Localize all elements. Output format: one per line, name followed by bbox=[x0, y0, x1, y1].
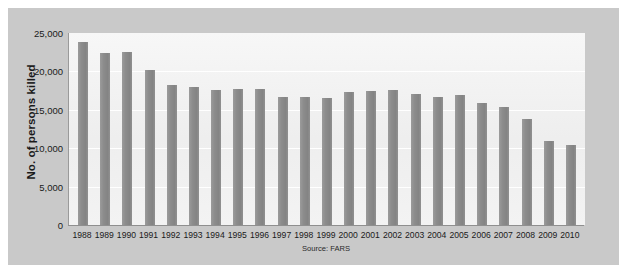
bar bbox=[122, 52, 132, 225]
x-tick-label: 2005 bbox=[448, 230, 470, 240]
bar-slot bbox=[493, 33, 515, 225]
y-axis-tick-labels: 25,000 20,000 15,000 10,000 5,000 0 bbox=[8, 33, 63, 225]
bar bbox=[544, 141, 554, 225]
bar-slot bbox=[116, 33, 138, 225]
x-tick-label: 2000 bbox=[337, 230, 359, 240]
x-tick-label: 1998 bbox=[293, 230, 315, 240]
x-tick-label: 2006 bbox=[470, 230, 492, 240]
x-tick-label: 1989 bbox=[93, 230, 115, 240]
y-tick-label: 20,000 bbox=[11, 66, 63, 77]
bar bbox=[189, 87, 199, 225]
bar-slot bbox=[382, 33, 404, 225]
bar bbox=[100, 53, 110, 225]
x-tick-label: 2002 bbox=[381, 230, 403, 240]
bar-slot bbox=[183, 33, 205, 225]
bar-slot bbox=[360, 33, 382, 225]
y-tick-label: 15,000 bbox=[11, 104, 63, 115]
x-tick-label: 1993 bbox=[182, 230, 204, 240]
bar-slot bbox=[205, 33, 227, 225]
bar bbox=[477, 103, 487, 225]
bar-slot bbox=[316, 33, 338, 225]
x-tick-label: 2001 bbox=[359, 230, 381, 240]
x-tick-label: 1988 bbox=[71, 230, 93, 240]
bar-slot bbox=[538, 33, 560, 225]
bar-slot bbox=[338, 33, 360, 225]
x-tick-label: 2009 bbox=[537, 230, 559, 240]
x-tick-label: 2010 bbox=[559, 230, 581, 240]
bar bbox=[499, 107, 509, 225]
bar bbox=[433, 97, 443, 225]
bar-slot bbox=[449, 33, 471, 225]
x-tick-label: 1997 bbox=[271, 230, 293, 240]
bar-slot bbox=[72, 33, 94, 225]
chart-panel: No. of persons killed 25,000 20,000 15,0… bbox=[8, 8, 619, 265]
x-tick-label: 1991 bbox=[138, 230, 160, 240]
bar-slot bbox=[515, 33, 537, 225]
bar bbox=[233, 89, 243, 225]
x-tick-label: 1990 bbox=[115, 230, 137, 240]
x-axis-tick-labels: 1988198919901991199219931994199519961997… bbox=[68, 230, 584, 240]
x-tick-label: 2008 bbox=[514, 230, 536, 240]
chart-figure: No. of persons killed 25,000 20,000 15,0… bbox=[8, 8, 619, 265]
x-tick-label: 1995 bbox=[226, 230, 248, 240]
x-tick-label: 1996 bbox=[248, 230, 270, 240]
bar bbox=[455, 95, 465, 225]
bar bbox=[78, 42, 88, 225]
bar-slot bbox=[94, 33, 116, 225]
y-tick-label: 5,000 bbox=[11, 181, 63, 192]
bar-slot bbox=[139, 33, 161, 225]
y-tick-label: 10,000 bbox=[11, 143, 63, 154]
x-tick-label: 1999 bbox=[315, 230, 337, 240]
bar bbox=[278, 97, 288, 225]
bar-slot bbox=[427, 33, 449, 225]
bar-slot bbox=[249, 33, 271, 225]
bar bbox=[145, 70, 155, 225]
y-tick-label: 25,000 bbox=[11, 28, 63, 39]
bar bbox=[522, 119, 532, 225]
bar bbox=[566, 145, 576, 225]
source-note: Source: FARS bbox=[68, 244, 584, 253]
x-axis-line bbox=[68, 225, 584, 226]
x-tick-label: 1994 bbox=[204, 230, 226, 240]
bar bbox=[300, 97, 310, 225]
bar bbox=[388, 90, 398, 225]
bar bbox=[211, 90, 221, 225]
x-tick-label: 1992 bbox=[160, 230, 182, 240]
bar bbox=[255, 89, 265, 225]
x-tick-label: 2003 bbox=[404, 230, 426, 240]
bar-series bbox=[69, 33, 585, 225]
bar-slot bbox=[272, 33, 294, 225]
bar bbox=[344, 92, 354, 225]
y-tick-label: 0 bbox=[11, 220, 63, 231]
bar-slot bbox=[471, 33, 493, 225]
bar-slot bbox=[161, 33, 183, 225]
bar bbox=[366, 91, 376, 225]
x-tick-label: 2004 bbox=[426, 230, 448, 240]
bar-slot bbox=[405, 33, 427, 225]
x-tick-label: 2007 bbox=[492, 230, 514, 240]
bar bbox=[167, 85, 177, 225]
plot-area bbox=[68, 33, 585, 225]
bar bbox=[411, 94, 421, 225]
bar-slot bbox=[294, 33, 316, 225]
bar-slot bbox=[227, 33, 249, 225]
bar bbox=[322, 98, 332, 225]
bar-slot bbox=[560, 33, 582, 225]
